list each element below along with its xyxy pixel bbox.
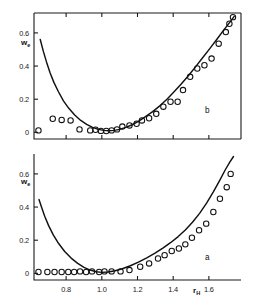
panel-a-x-ticklabels: 0.81.01.21.41.6: [61, 285, 214, 294]
chart-panel-b: 00.20.40.6 we b: [0, 0, 254, 152]
data-point: [196, 228, 201, 233]
data-point: [36, 128, 41, 133]
data-point: [176, 246, 181, 251]
data-point: [162, 252, 167, 257]
panel-b-letter: b: [205, 106, 210, 115]
panel-b-frame: [34, 13, 241, 139]
y-ticklabel: 0: [25, 128, 29, 137]
panel-b-y-axis-title: we: [20, 38, 30, 48]
panel-b-top-ticks: [66, 13, 209, 17]
data-point: [59, 269, 64, 274]
data-point: [52, 269, 57, 274]
y-ticklabel: 0.4: [19, 62, 29, 71]
y-ticklabel: 0.2: [19, 236, 29, 245]
x-ticklabel: 1.4: [168, 285, 178, 294]
y-ticklabel: 0.4: [19, 203, 29, 212]
data-point: [66, 269, 71, 274]
data-point: [154, 111, 159, 116]
data-point: [202, 63, 207, 68]
data-point: [45, 269, 50, 274]
data-point: [83, 269, 88, 274]
data-point: [59, 117, 64, 122]
panel-b-y-ticks: [34, 33, 38, 132]
data-point: [77, 269, 82, 274]
data-point: [189, 235, 194, 240]
data-point: [36, 269, 41, 274]
panel-b-svg: 00.20.40.6 we b: [0, 0, 254, 152]
data-point: [50, 116, 55, 121]
y-ticklabel: 0: [25, 269, 29, 278]
data-point: [146, 261, 151, 266]
data-point: [77, 127, 82, 132]
panel-b-data-points: [36, 14, 236, 133]
panel-a-y-ticks: [34, 174, 38, 273]
x-ticklabel: 0.8: [61, 285, 71, 294]
data-point: [228, 171, 233, 176]
y-ticklabel: 0.2: [19, 95, 29, 104]
data-point: [195, 66, 200, 71]
data-point: [175, 99, 180, 104]
data-point: [211, 209, 216, 214]
data-point: [102, 269, 107, 274]
panel-a-svg: 00.20.40.6 0.81.01.21.41.6 we rH a: [0, 152, 254, 305]
data-point: [223, 29, 228, 34]
data-point: [137, 264, 142, 269]
data-point: [169, 248, 174, 253]
data-point: [71, 269, 76, 274]
data-point: [217, 196, 222, 201]
panel-a-axes: [34, 154, 241, 280]
panel-a-data-points: [36, 171, 234, 275]
data-point: [155, 256, 160, 261]
data-point: [216, 41, 221, 46]
data-point: [224, 184, 229, 189]
data-point: [161, 104, 166, 109]
y-ticklabel: 0.6: [19, 29, 29, 38]
data-point: [204, 221, 209, 226]
x-ticklabel: 1.2: [133, 285, 143, 294]
data-point: [146, 116, 151, 121]
figure-container: 00.20.40.6 we b 00.20.40.6 0.81.01.21.41…: [0, 0, 254, 305]
data-point: [168, 99, 173, 104]
panel-a-frame: [34, 154, 241, 280]
chart-panel-a: 00.20.40.6 0.81.01.21.41.6 we rH a: [0, 152, 254, 305]
data-point: [68, 118, 73, 123]
x-ticklabel: 1.0: [97, 285, 107, 294]
data-point: [180, 87, 185, 92]
data-point: [88, 128, 93, 133]
data-point: [183, 242, 188, 247]
data-point: [209, 56, 214, 61]
x-ticklabel: 1.6: [204, 285, 214, 294]
panel-a-x-axis-title: rH: [193, 286, 200, 296]
data-point: [127, 267, 132, 272]
panel-a-x-ticks: [66, 276, 209, 280]
panel-b-axes: [34, 13, 241, 139]
panel-b-x-ticks: [66, 135, 209, 139]
panel-a-letter: a: [205, 253, 210, 262]
